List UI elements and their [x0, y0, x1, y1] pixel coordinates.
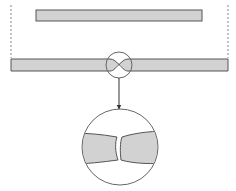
bottom-bar-right — [119, 59, 228, 71]
detail-left-piece — [70, 133, 118, 164]
magnified-joint-detail — [70, 131, 170, 164]
detail-right-piece — [120, 131, 170, 164]
top-bar — [36, 10, 202, 21]
bottom-bar-left — [11, 59, 119, 71]
joint-diagram — [0, 0, 236, 191]
